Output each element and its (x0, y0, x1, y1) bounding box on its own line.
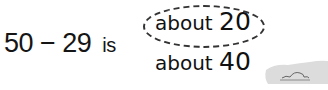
option-about-40[interactable]: about 40 (155, 47, 251, 76)
option-word: about (155, 51, 213, 75)
rock-illustration-icon (264, 58, 328, 84)
question: 50 − 29 is (4, 28, 116, 59)
expression: 50 − 29 (4, 28, 91, 58)
option-word: about (155, 11, 213, 35)
option-about-20[interactable]: about 20 (155, 7, 251, 36)
option-number: 40 (219, 47, 251, 76)
option-number: 20 (219, 7, 251, 36)
question-verb: is (102, 34, 115, 56)
